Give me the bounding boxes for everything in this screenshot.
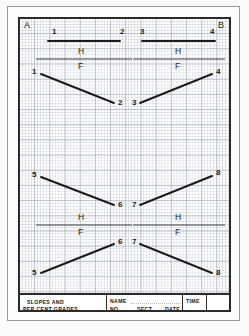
title-block-subject-cell: SLOPES AND PER CENT GRADES (20, 295, 107, 310)
problem-4-f-label: F (175, 228, 180, 237)
problem-1-front-view-line (41, 74, 114, 103)
problem-3-f-label: F (78, 228, 83, 237)
problem-3-front-view-line (41, 244, 114, 273)
title-block-time-label: TIME (186, 298, 200, 304)
title-block-student-cell[interactable]: NAME NO. SECT DATE (107, 295, 183, 310)
worksheet-sheet: A B C D 1 2 H F 1 2 3 4 H F 3 4 5 6 H F … (0, 0, 249, 336)
problem-4-top-view-end-label: 8 (216, 169, 220, 177)
problem-3-top-view-line (41, 177, 114, 205)
problem-4-top-view-line (140, 176, 212, 205)
title-block: SLOPES AND PER CENT GRADES NAME NO. SECT… (18, 293, 231, 312)
problem-2-top-view-start-label: 3 (140, 28, 144, 36)
problem-2-front-view-line (140, 74, 212, 103)
title-block-title-line-1: SLOPES AND (27, 299, 64, 305)
problem-2-front-view-start-label: 3 (132, 99, 136, 107)
problem-2-f-label: F (175, 62, 180, 71)
corner-label-a: A (24, 21, 30, 30)
problem-3-front-view-end-label: 6 (118, 238, 122, 246)
problem-1-top-view-start-label: 1 (52, 28, 56, 36)
problem-2-top-view-end-label: 4 (210, 28, 214, 36)
problem-1-front-view-start-label: 1 (32, 68, 36, 76)
problem-3-top-view-end-label: 6 (118, 201, 122, 209)
problem-1-h-label: H (78, 47, 84, 56)
title-block-title-line-2: PER CENT GRADES (23, 306, 78, 311)
corner-label-b: B (218, 21, 224, 30)
problem-4-front-view-start-label: 7 (132, 238, 136, 246)
title-block-date-label: DATE (165, 306, 180, 311)
problem-4-h-label: H (175, 213, 181, 222)
problem-4-front-view-line (140, 244, 212, 273)
problem-1-front-view-end-label: 2 (118, 99, 122, 107)
problem-1-f-label: F (78, 62, 83, 71)
problem-4-top-view-start-label: 7 (132, 201, 136, 209)
problem-1-top-view-end-label: 2 (120, 28, 124, 36)
problem-3-front-view-start-label: 5 (32, 269, 36, 277)
title-block-sect-label: SECT (137, 306, 152, 311)
title-block-time-cell[interactable]: TIME (183, 295, 207, 310)
problem-2-h-label: H (175, 47, 181, 56)
geometry-overlay (20, 19, 229, 310)
title-block-name-label: NAME (110, 298, 127, 304)
title-block-grade-cell[interactable] (207, 295, 229, 310)
title-block-no-label: NO. (110, 306, 120, 311)
problem-3-h-label: H (78, 213, 84, 222)
problem-2-front-view-end-label: 4 (216, 68, 220, 76)
drawing-frame: A B C D 1 2 H F 1 2 3 4 H F 3 4 5 6 H F … (18, 17, 231, 312)
problem-3-top-view-start-label: 5 (32, 171, 36, 179)
name-write-rule (131, 303, 183, 304)
problem-4-front-view-end-label: 8 (216, 269, 220, 277)
